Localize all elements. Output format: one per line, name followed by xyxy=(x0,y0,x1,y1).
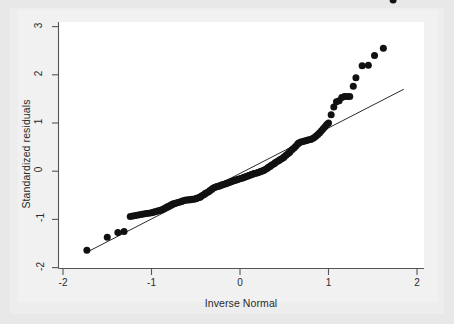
x-axis-title: Inverse Normal xyxy=(183,297,299,309)
y-tick-label: 0 xyxy=(33,167,44,173)
plot-canvas xyxy=(0,0,454,324)
data-point xyxy=(371,52,378,59)
qq-plot-chart: Standardized residuals Inverse Normal -2… xyxy=(0,0,454,324)
x-tick-label: 1 xyxy=(326,277,332,288)
data-point xyxy=(346,93,353,100)
data-point xyxy=(350,83,357,90)
data-point xyxy=(83,247,90,254)
data-point xyxy=(104,234,111,241)
data-point xyxy=(114,229,121,236)
y-tick-label: -2 xyxy=(35,262,46,271)
x-axis-ticks xyxy=(63,269,417,276)
y-tick-label: 1 xyxy=(33,119,44,125)
y-tick-label: 3 xyxy=(33,22,44,28)
y-axis-title: Standardized residuals xyxy=(20,84,32,224)
x-tick-label: 2 xyxy=(414,277,420,288)
x-tick-label: -1 xyxy=(147,277,156,288)
data-point xyxy=(359,62,366,69)
x-tick-label: -2 xyxy=(59,277,68,288)
qq-plot-screenshot: Standardized residuals Inverse Normal -2… xyxy=(0,0,454,324)
y-tick-label: -1 xyxy=(35,213,46,222)
y-tick-label: 2 xyxy=(33,71,44,77)
data-point xyxy=(380,45,387,52)
data-point xyxy=(328,111,335,118)
data-point xyxy=(390,0,397,4)
data-point xyxy=(325,120,332,127)
data-point xyxy=(365,62,372,69)
data-point xyxy=(352,74,359,81)
plot-background xyxy=(58,22,424,268)
x-tick-label: 0 xyxy=(237,277,243,288)
data-point xyxy=(121,228,128,235)
y-axis-ticks xyxy=(52,27,59,268)
